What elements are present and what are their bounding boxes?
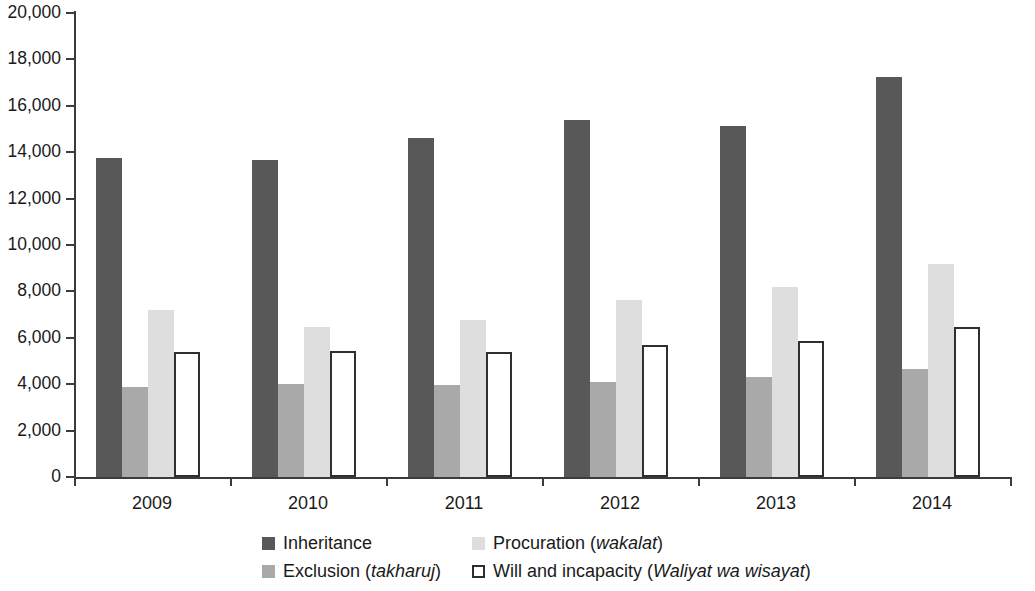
x-axis-tick-label: 2011: [386, 492, 542, 514]
legend-item[interactable]: Inheritance: [262, 532, 372, 554]
x-axis-tick-mark: [542, 477, 544, 486]
y-axis-tick-label: 10,000: [7, 234, 61, 254]
y-axis-tick-label: 0: [51, 466, 61, 486]
y-axis-tick-mark: [66, 337, 74, 339]
legend-item[interactable]: Procuration (wakalat): [472, 532, 663, 554]
legend-item-label: Exclusion (takharuj): [283, 560, 441, 582]
white-outline-swatch: [472, 565, 485, 578]
x-axis-tick-label: 2014: [854, 492, 1010, 514]
bar: [902, 369, 928, 477]
y-axis-tick-mark: [66, 198, 74, 200]
y-axis-tick-label: 20,000: [7, 2, 61, 22]
bar: [122, 387, 148, 477]
medium-gray-swatch: [262, 565, 275, 578]
legend-item[interactable]: Will and incapacity (Waliyat wa wisayat): [472, 560, 811, 582]
bar: [96, 158, 122, 477]
legend-item[interactable]: Exclusion (takharuj): [262, 560, 441, 582]
x-axis-tick-label: 2009: [74, 492, 230, 514]
bar-chart-figure: 02,0004,0006,0008,00010,00012,00014,0001…: [0, 0, 1035, 591]
bar: [954, 327, 980, 477]
y-axis-tick-mark: [66, 151, 74, 153]
x-axis-tick-label: 2013: [698, 492, 854, 514]
bar: [564, 120, 590, 477]
bar: [928, 264, 954, 477]
bar: [148, 310, 174, 477]
y-axis-tick-label: 6,000: [17, 327, 61, 347]
legend-item-label: Inheritance: [283, 532, 372, 554]
bar: [278, 384, 304, 477]
x-axis-tick-label: 2012: [542, 492, 698, 514]
light-gray-swatch: [472, 537, 485, 550]
y-axis-tick-mark: [66, 290, 74, 292]
chart-legend: InheritanceProcuration (wakalat)Exclusio…: [262, 532, 862, 588]
y-axis-tick-mark: [66, 105, 74, 107]
y-axis-tick-mark: [66, 58, 74, 60]
bar: [642, 345, 668, 477]
y-axis-tick-label: 16,000: [7, 95, 61, 115]
bar: [486, 352, 512, 477]
y-axis-tick-mark: [66, 383, 74, 385]
y-axis-tick-label: 14,000: [7, 141, 61, 161]
y-axis-tick-mark: [66, 430, 74, 432]
bar: [590, 382, 616, 477]
bar: [252, 160, 278, 477]
bar: [616, 300, 642, 477]
bar: [720, 126, 746, 477]
bar: [876, 77, 902, 477]
x-axis-tick-mark: [854, 477, 856, 486]
bar: [746, 377, 772, 477]
y-axis-tick-mark: [66, 12, 74, 14]
x-axis-tick-mark: [386, 477, 388, 486]
y-axis-tick-label: 2,000: [17, 420, 61, 440]
y-axis-tick-label: 18,000: [7, 48, 61, 68]
bar: [304, 327, 330, 477]
y-axis-tick-label: 8,000: [17, 280, 61, 300]
y-axis-tick-label: 12,000: [7, 188, 61, 208]
bar: [434, 385, 460, 477]
bar: [408, 138, 434, 477]
bar: [798, 341, 824, 477]
legend-item-label: Will and incapacity (Waliyat wa wisayat): [493, 560, 811, 582]
x-axis-tick-mark: [1010, 477, 1012, 486]
legend-item-label: Procuration (wakalat): [493, 532, 663, 554]
bar: [460, 320, 486, 477]
plot-area: [74, 13, 1010, 477]
y-axis-tick-mark: [66, 476, 74, 478]
bar: [330, 351, 356, 477]
x-axis-tick-mark: [698, 477, 700, 486]
y-axis-tick-mark: [66, 244, 74, 246]
bar: [772, 287, 798, 477]
x-axis-tick-label: 2010: [230, 492, 386, 514]
x-axis-tick-mark: [230, 477, 232, 486]
dark-gray-swatch: [262, 537, 275, 550]
bar: [174, 352, 200, 477]
x-axis-tick-mark: [74, 477, 76, 486]
y-axis-tick-label: 4,000: [17, 373, 61, 393]
